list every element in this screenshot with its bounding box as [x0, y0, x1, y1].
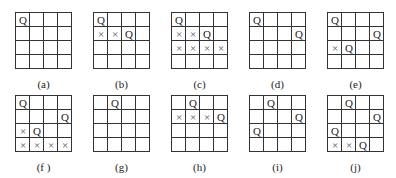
panel-label: (i) — [249, 161, 306, 173]
panel-j: QQQQ××(j) — [327, 95, 385, 152]
grid-line — [94, 123, 149, 124]
queen-marker: Q — [186, 96, 200, 110]
queen-marker: Q — [264, 96, 278, 110]
cross-icon: × — [200, 41, 214, 55]
panel-f: QQQ×××××(f ) — [15, 95, 73, 152]
cross-icon: × — [328, 41, 342, 55]
grid-line — [94, 137, 149, 138]
cross-icon: × — [16, 138, 30, 152]
panel-label: (j) — [327, 161, 384, 173]
queen-marker: Q — [214, 110, 228, 124]
panel-i: QQQ(i) — [249, 95, 307, 152]
chessboard: QQ×××××× — [171, 12, 228, 69]
panel-label: (f ) — [15, 161, 72, 173]
chessboard: QQ×× — [93, 12, 150, 69]
panel-h: QQ×××(h) — [171, 95, 229, 152]
panel-label: (b) — [93, 78, 150, 90]
queen-marker: Q — [94, 13, 108, 27]
cross-icon: × — [342, 138, 356, 152]
panel-label: (e) — [327, 78, 384, 90]
panel-label: (c) — [171, 78, 228, 90]
cross-icon: × — [108, 27, 122, 41]
panel-g: Q(g) — [93, 95, 151, 152]
chessboard: QQ××× — [171, 95, 228, 152]
queen-marker: Q — [172, 13, 186, 27]
grid-line — [135, 96, 136, 151]
chessboard: Q — [93, 95, 150, 152]
queen-marker: Q — [292, 27, 306, 41]
queen-marker: Q — [356, 138, 370, 152]
cross-icon: × — [172, 41, 186, 55]
chessboard: QQQ× — [327, 12, 384, 69]
chessboard: QQQQ×× — [327, 95, 384, 152]
queen-marker: Q — [370, 110, 384, 124]
cross-icon: × — [58, 138, 72, 152]
queen-marker: Q — [342, 41, 356, 55]
cross-icon: × — [328, 138, 342, 152]
queen-marker: Q — [342, 96, 356, 110]
queen-marker: Q — [328, 124, 342, 138]
cross-icon: × — [214, 41, 228, 55]
chessboard: QQ — [249, 12, 306, 69]
chessboard: QQQ××××× — [15, 95, 72, 152]
panel-label: (g) — [93, 161, 150, 173]
queen-marker: Q — [16, 13, 30, 27]
grid-line — [16, 40, 71, 41]
panel-a: Q(a) — [15, 12, 73, 69]
queen-marker: Q — [370, 27, 384, 41]
cross-icon: × — [30, 138, 44, 152]
panel-b: QQ××(b) — [93, 12, 151, 69]
queen-marker: Q — [16, 96, 30, 110]
cross-icon: × — [94, 27, 108, 41]
cross-icon: × — [186, 41, 200, 55]
queen-marker: Q — [108, 96, 122, 110]
chessboard: Q — [15, 12, 72, 69]
panel-label: (h) — [171, 161, 228, 173]
queen-marker: Q — [250, 124, 264, 138]
panel-e: QQQ×(e) — [327, 12, 385, 69]
panel-label: (a) — [15, 78, 72, 90]
queen-marker: Q — [292, 110, 306, 124]
panel-d: QQ(d) — [249, 12, 307, 69]
cross-icon: × — [200, 110, 214, 124]
cross-icon: × — [186, 27, 200, 41]
queen-marker: Q — [328, 13, 342, 27]
grid-line — [16, 54, 71, 55]
queen-marker: Q — [122, 27, 136, 41]
panel-c: QQ××××××(c) — [171, 12, 229, 69]
grid-line — [172, 137, 227, 138]
cross-icon: × — [44, 138, 58, 152]
grid-line — [94, 54, 149, 55]
cross-icon: × — [186, 110, 200, 124]
chessboard: QQQ — [249, 95, 306, 152]
panel-label: (d) — [249, 78, 306, 90]
cross-icon: × — [16, 124, 30, 138]
queen-marker: Q — [250, 13, 264, 27]
queen-marker: Q — [58, 110, 72, 124]
grid-line — [250, 54, 305, 55]
queen-marker: Q — [30, 124, 44, 138]
cross-icon: × — [172, 27, 186, 41]
grid-line — [57, 13, 58, 68]
queen-marker: Q — [200, 27, 214, 41]
cross-icon: × — [172, 110, 186, 124]
